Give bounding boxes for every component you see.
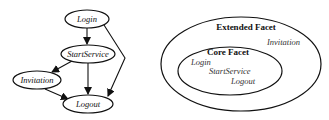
node-startservice-label: StartService [67,49,109,59]
extended-facet-title: Extended Facet [216,22,276,32]
state-graph: Login StartService Invitation Logout [13,10,125,113]
core-facet-title: Core Facet [207,47,249,57]
node-invitation-label: Invitation [19,75,53,85]
node-login: Login [65,10,109,28]
node-login-label: Login [76,14,97,24]
node-logout: Logout [63,95,113,113]
facet-diagram: Extended Facet Invitation Core Facet Log… [161,17,321,111]
core-facet-item-logout: Logout [230,76,256,86]
core-facet-item-startservice: StartService [209,66,251,76]
node-startservice: StartService [61,45,115,63]
node-logout-label: Logout [75,99,101,109]
extended-facet-item-invitation: Invitation [266,37,300,47]
node-invitation: Invitation [13,71,61,89]
core-facet-item-login: Login [190,57,211,67]
edge-startservice-invitation [52,61,72,72]
edge-invitation-logout [45,89,68,99]
diagram-canvas: Login StartService Invitation Logout Ext… [0,0,329,120]
